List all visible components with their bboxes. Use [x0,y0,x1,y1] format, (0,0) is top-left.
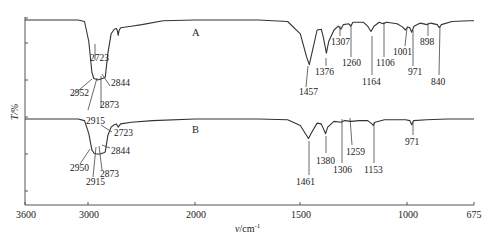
x-tick-labels: 3600 3000 2000 1500 1000 675 [16,209,482,220]
peak-label-b-2844: 2844 [111,146,130,156]
series-label-b: B [192,124,199,135]
peak-label-a-1106: 1106 [376,58,395,68]
x-tick-3600: 3600 [16,209,36,220]
x-axis-title: ν/cm-1 [235,222,261,234]
peak-label-a-2844: 2844 [111,78,130,88]
leader-line [80,149,90,164]
ir-spectrum-chart: 3600 3000 2000 1500 1000 675 ν/cm-1 T/% … [0,0,493,242]
peak-label-a-2723: 2723 [90,53,109,63]
peak-label-a-2873: 2873 [100,100,119,110]
leader-line [350,118,352,145]
series-label-a: A [192,27,200,38]
peak-label-b-1306: 1306 [333,165,352,175]
y-axis-title: T/% [9,104,20,121]
peak-label-b-1153: 1153 [364,165,383,175]
x-tick-1500: 1500 [291,209,311,220]
leader-line [88,78,97,110]
leader-line [439,26,440,75]
leader-line [306,66,308,87]
peak-label-a-1001: 1001 [393,47,412,57]
spectra [25,20,474,154]
peak-label-b-2723: 2723 [114,128,133,138]
peak-label-a-2952: 2952 [70,88,89,98]
leader-line [99,146,102,170]
peak-annotations: 2723295228442873145713761307126011641106… [70,22,446,187]
peak-label-b-2950: 2950 [70,163,89,173]
peak-label-a-898: 898 [420,37,435,47]
peak-label-a-1307: 1307 [331,37,350,47]
peak-label-a-1457: 1457 [299,87,318,97]
x-tick-2000: 2000 [186,209,206,220]
peak-label-b-1259: 1259 [346,147,365,157]
peak-label-b-1461: 1461 [296,177,315,187]
peak-label-b-2915: 2915 [86,177,105,187]
leader-line [102,74,110,86]
x-tick-3000: 3000 [79,209,99,220]
leader-line [405,28,407,46]
peak-label-a-1164: 1164 [362,77,381,87]
peak-label-a-971: 971 [408,67,423,77]
x-tick-675: 675 [467,209,482,220]
peak-label-a-840: 840 [431,77,446,87]
peak-label-a-1260: 1260 [342,58,361,68]
peak-label-a-2915-lower: 2915 [86,116,105,126]
peak-label-b-971: 971 [405,137,420,147]
peak-label-a-1376: 1376 [315,67,334,77]
x-tick-1000: 1000 [398,209,418,220]
